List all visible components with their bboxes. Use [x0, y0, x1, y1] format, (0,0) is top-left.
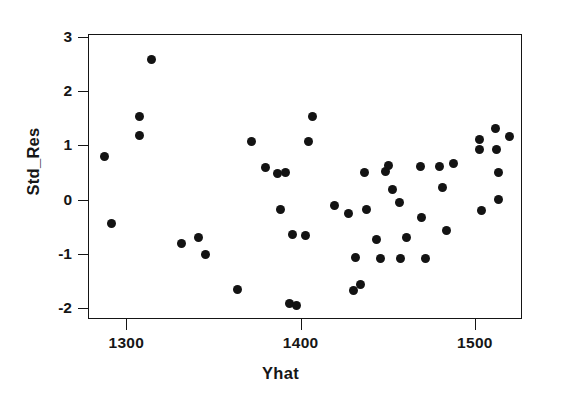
data-point	[505, 132, 514, 141]
x-axis-title: Yhat	[0, 364, 561, 383]
data-point	[201, 250, 210, 259]
data-point	[449, 159, 458, 168]
data-point	[304, 137, 313, 146]
plot-area	[88, 34, 522, 319]
y-axis-tick	[78, 254, 88, 255]
data-point	[396, 254, 405, 263]
y-axis-tick	[78, 91, 88, 92]
y-axis-tick-label: -2	[28, 300, 72, 316]
data-point	[107, 219, 116, 228]
data-point	[233, 285, 242, 294]
data-point	[477, 206, 486, 215]
data-point	[100, 152, 109, 161]
data-point	[421, 254, 430, 263]
y-axis-tick-label: 3	[28, 29, 72, 45]
y-axis-tick	[78, 308, 88, 309]
data-point	[288, 230, 297, 239]
data-point	[356, 280, 365, 289]
data-point	[442, 226, 451, 235]
data-point	[475, 135, 484, 144]
data-point	[475, 145, 484, 154]
data-point	[344, 209, 353, 218]
y-axis-tick	[78, 37, 88, 38]
x-axis-tick	[475, 319, 476, 330]
data-point	[417, 213, 426, 222]
data-point	[177, 239, 186, 248]
data-point	[135, 112, 144, 121]
y-axis-tick-label: 2	[28, 83, 72, 99]
data-point	[384, 161, 393, 170]
data-point	[301, 231, 310, 240]
data-point	[388, 185, 397, 194]
x-axis-tick-label: 1300	[91, 335, 161, 351]
data-point	[492, 145, 501, 154]
y-axis-title: Std_Res	[24, 87, 43, 237]
data-point	[494, 168, 503, 177]
y-axis-tick	[78, 145, 88, 146]
data-point	[308, 112, 317, 121]
data-points-layer	[89, 35, 521, 318]
data-point	[276, 205, 285, 214]
x-axis-tick	[301, 319, 302, 330]
data-point	[351, 253, 360, 262]
data-point	[135, 131, 144, 140]
data-point	[376, 254, 385, 263]
scatter-plot-figure: Std_Res -2-10123 130014001500 Yhat	[0, 0, 561, 402]
data-point	[494, 195, 503, 204]
x-axis-tick-label: 1400	[266, 335, 336, 351]
y-axis-tick-label: 1	[28, 137, 72, 153]
data-point	[261, 163, 270, 172]
data-point	[416, 162, 425, 171]
data-point	[273, 169, 282, 178]
y-axis-tick-label: -1	[28, 246, 72, 262]
y-axis-tick-label: 0	[28, 192, 72, 208]
data-point	[292, 301, 301, 310]
data-point	[330, 201, 339, 210]
data-point	[491, 124, 500, 133]
data-point	[147, 55, 156, 64]
data-point	[281, 168, 290, 177]
data-point	[438, 183, 447, 192]
data-point	[372, 235, 381, 244]
y-axis-tick	[78, 200, 88, 201]
data-point	[360, 168, 369, 177]
data-point	[435, 162, 444, 171]
data-point	[247, 137, 256, 146]
data-point	[194, 233, 203, 242]
x-axis-tick	[126, 319, 127, 330]
data-point	[362, 205, 371, 214]
x-axis-tick-label: 1500	[440, 335, 510, 351]
data-point	[395, 198, 404, 207]
data-point	[402, 233, 411, 242]
